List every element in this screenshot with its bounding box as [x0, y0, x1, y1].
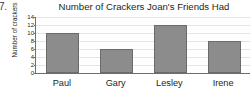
- y-tick-label: 14: [22, 14, 34, 20]
- y-tick-mark: [34, 33, 36, 34]
- x-axis-tick-labels: PaulGaryLesleyIrene: [35, 76, 250, 92]
- x-tick-label: Irene: [213, 76, 234, 90]
- y-tick-mark: [34, 49, 36, 50]
- y-axis-tick-labels: 02468101214: [22, 17, 34, 73]
- bar-paul: [46, 33, 79, 73]
- plot-area: [35, 17, 250, 73]
- y-axis-title: Number of crackers: [11, 1, 19, 59]
- y-tick-label: 2: [22, 62, 34, 68]
- y-tick-label: 4: [22, 54, 34, 60]
- chart-title: Number of Crackers Joan's Friends Had: [38, 1, 250, 13]
- item-number: 7.: [0, 1, 7, 13]
- y-tick-mark: [34, 65, 36, 66]
- x-tick-label: Gary: [106, 76, 126, 90]
- bar-series: [36, 17, 250, 73]
- y-tick-mark: [34, 57, 36, 58]
- bar-chart-figure: 7. Number of Crackers Joan's Friends Had…: [0, 0, 250, 95]
- x-tick-label: Lesley: [156, 76, 183, 90]
- bar-irene: [208, 41, 241, 73]
- bar-lesley: [154, 25, 187, 73]
- bar-gary: [100, 49, 133, 73]
- x-axis-line: [35, 73, 250, 74]
- y-tick-mark: [34, 17, 36, 18]
- y-tick-mark: [34, 25, 36, 26]
- y-tick-label: 10: [22, 30, 34, 36]
- y-tick-label: 12: [22, 22, 34, 28]
- y-tick-mark: [34, 41, 36, 42]
- y-tick-label: 6: [22, 46, 34, 52]
- y-tick-label: 8: [22, 38, 34, 44]
- x-tick-label: Paul: [53, 76, 71, 90]
- y-tick-label: 0: [22, 70, 34, 76]
